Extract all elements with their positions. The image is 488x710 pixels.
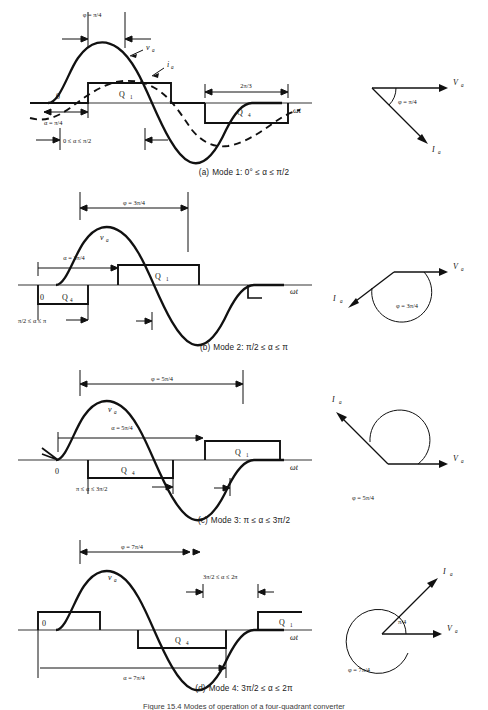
caption-mode-3: (c)Mode 3: π ≤ α ≤ 3π/2 xyxy=(0,516,488,525)
phi-label-mode-4: φ = 7π/4 xyxy=(121,543,144,550)
current-sub-mode-1: a xyxy=(171,64,174,70)
range-label-mode-1: 0 ≤ α ≤ π/2 xyxy=(63,137,91,144)
alpha-dimension-mode-3 xyxy=(58,432,203,452)
phasor-angle-arc-mode-3 xyxy=(370,410,430,464)
caption-index-mode-2: (b) xyxy=(200,343,210,352)
axis-label-mode-4: ωt xyxy=(290,633,299,642)
q1-label-mode-2: Q xyxy=(155,272,161,281)
phasor-angle-arc-mode-2 xyxy=(372,272,432,322)
q1-sub-mode-3: 1 xyxy=(246,452,249,458)
phasor-voltage-arrow-mode-4 xyxy=(433,630,442,638)
caption-text-mode-4: Mode 4: 3π/2 ≤ α ≤ 2π xyxy=(209,684,293,693)
phi-label-mode-2: φ = 3π/4 xyxy=(123,199,146,206)
panel-mode-4: φ = 7π/4 α = 7π/4 3π/2 ≤ α ≤ 2π v a 0 xyxy=(0,532,488,702)
phasor-current-label-mode-3: I xyxy=(331,395,335,404)
voltage-sub-mode-4: a xyxy=(114,577,117,583)
end-commutation-mark xyxy=(248,285,262,298)
start-commutation-mark xyxy=(42,448,58,460)
voltage-waveform xyxy=(56,227,284,345)
waveform-mode-2: φ = 3π/4 α = 3π/4 π/2 ≤ α ≤ π v a xyxy=(0,180,488,352)
phi-label-mode-3: φ = 5π/4 xyxy=(151,375,174,382)
phasor-voltage-label-mode-4: V xyxy=(447,624,453,633)
panel-mode-2: φ = 3π/4 α = 3π/4 π/2 ≤ α ≤ π v a xyxy=(0,180,488,355)
caption-mode-2: (b)Mode 2: π/2 ≤ α ≤ π xyxy=(0,343,488,352)
voltage-sub-mode-2: a xyxy=(106,237,109,243)
phasor-current-label-mode-4: I xyxy=(442,567,446,576)
q1-label-mode-3: Q xyxy=(235,448,241,457)
phasor-voltage-sub-mode-3: a xyxy=(461,458,464,464)
caption-text-mode-3: Mode 3: π ≤ α ≤ 3π/2 xyxy=(211,516,290,525)
caption-mode-4: (d)Mode 4: 3π/2 ≤ α ≤ 2π xyxy=(0,684,488,693)
phasor-inner-label-mode-4: π/4 xyxy=(398,618,407,625)
q4-conduction-block xyxy=(205,103,288,123)
phasor-current-vector-mode-3 xyxy=(340,416,388,464)
alpha-label-mode-2: α = 3π/4 xyxy=(63,254,85,261)
figure-caption: Figure 15.4 Modes of operation of a four… xyxy=(0,702,488,710)
phasor-current-sub-mode-2: a xyxy=(340,298,343,304)
phasor-current-vector-mode-1 xyxy=(372,88,424,140)
alpha-dimension-mode-4 xyxy=(38,630,226,678)
alpha-dimension-mode-2 xyxy=(38,262,118,276)
origin-label-mode-2: 0 xyxy=(40,293,44,302)
q4-label-mode-1: Q xyxy=(237,108,243,117)
range-dimension-mode-4 xyxy=(186,584,274,598)
phasor-current-sub-mode-1: a xyxy=(438,149,441,155)
caption-mode-1: (a)Mode 1: 0° ≤ α ≤ π/2 xyxy=(0,168,488,177)
phasor-angle-label-mode-4: φ = 7π/4 xyxy=(348,666,371,673)
caption-text-mode-2: Mode 2: π/2 ≤ α ≤ π xyxy=(213,343,288,352)
q1-label-mode-4: Q xyxy=(279,618,285,627)
alpha-label-mode-4: α = 7π/4 xyxy=(123,674,145,681)
current-label-mode-1: i xyxy=(167,60,169,69)
phasor-voltage-label-mode-1: V xyxy=(453,78,459,87)
voltage-sub-mode-3: a xyxy=(114,409,117,415)
q4-label-mode-4: Q xyxy=(175,636,181,645)
voltage-sub-mode-1: a xyxy=(152,47,155,53)
voltage-label-mode-1: v xyxy=(146,43,150,52)
figure-root: φ = π/4 α = π/4 0 ≤ α ≤ π/2 xyxy=(0,0,488,710)
range-label-mode-4: 3π/2 ≤ α ≤ 2π xyxy=(203,573,238,580)
phasor-voltage-arrow-mode-1 xyxy=(439,84,448,92)
alpha-label-mode-3: α = 5π/4 xyxy=(111,424,133,431)
phasor-voltage-sub-mode-4: a xyxy=(455,628,458,634)
q4-sub-mode-4: 4 xyxy=(186,640,189,646)
voltage-label-mode-3: v xyxy=(108,405,112,414)
origin-label-mode-3: 0 xyxy=(55,467,59,476)
q4-sub-mode-3: 4 xyxy=(132,470,135,476)
panel-mode-3: φ = 5π/4 α = 5π/4 π ≤ α ≤ 3π/2 v a 0 xyxy=(0,360,488,532)
waveform-mode-3: φ = 5π/4 α = 5π/4 π ≤ α ≤ 3π/2 v a 0 xyxy=(0,360,488,528)
extra-label-mode-1: 2π/3 xyxy=(240,82,251,89)
phasor-current-sub-mode-4: a xyxy=(450,571,453,577)
range-label-mode-2: π/2 ≤ α ≤ π xyxy=(18,317,47,324)
phasor-voltage-arrow-mode-3 xyxy=(439,460,448,468)
axis-label-mode-3: ωt xyxy=(290,463,299,472)
phasor-angle-label-mode-2: φ = 3π/4 xyxy=(396,302,419,309)
range-label-mode-3: π ≤ α ≤ 3π/2 xyxy=(76,485,107,492)
alpha-label-mode-1: α = π/4 xyxy=(44,119,63,126)
phasor-mode-1: φ = π/4 V a I a xyxy=(372,78,464,155)
phasor-angle-label-mode-1: φ = π/4 xyxy=(398,98,417,105)
range-dimension-mode-3 xyxy=(88,478,230,496)
q4-sub-mode-1: 4 xyxy=(248,112,251,118)
phasor-angle-label-mode-3: φ = 5π/4 xyxy=(352,494,375,501)
phasor-voltage-sub-mode-1: a xyxy=(461,82,464,88)
caption-text-mode-1: Mode 1: 0° ≤ α ≤ π/2 xyxy=(212,168,289,177)
phasor-angle-arc-mode-1 xyxy=(389,88,396,105)
phasor-current-label-mode-1: I xyxy=(431,145,435,154)
phasor-voltage-arrow-mode-2 xyxy=(439,268,448,276)
phasor-mode-2: φ = 3π/4 V a I a xyxy=(332,262,464,322)
q1-conduction-block xyxy=(205,441,280,460)
axis-label-mode-2: ωt xyxy=(290,287,299,296)
range-dimension-mode-2 xyxy=(38,304,152,330)
phasor-voltage-label-mode-2: V xyxy=(453,262,459,271)
q4-label-mode-3: Q xyxy=(121,466,127,475)
caption-index-mode-1: (a) xyxy=(199,168,209,177)
phasor-current-sub-mode-3: a xyxy=(339,399,342,405)
voltage-label-mode-2: v xyxy=(100,233,104,242)
panel-mode-1: φ = π/4 α = π/4 0 ≤ α ≤ π/2 xyxy=(0,0,488,180)
q1-sub-mode-1: 1 xyxy=(130,94,133,100)
origin-label-mode-1: 0 xyxy=(56,92,60,101)
q4-label-mode-2: Q xyxy=(62,293,68,302)
waveform-mode-4: φ = 7π/4 α = 7π/4 3π/2 ≤ α ≤ 2π v a 0 xyxy=(0,532,488,700)
phasor-voltage-label-mode-3: V xyxy=(453,454,459,463)
phasor-current-label-mode-2: I xyxy=(332,294,336,303)
